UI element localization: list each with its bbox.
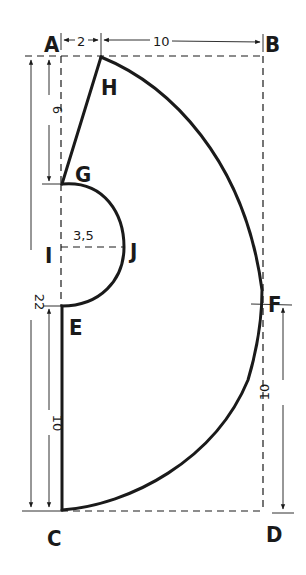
dim-label-e-c: 10 <box>50 415 65 432</box>
label-j: J <box>128 239 137 264</box>
dim-label-h-b: 10 <box>153 34 170 49</box>
label-g: G <box>75 162 91 187</box>
label-e: E <box>69 315 83 340</box>
dim-label-a-h: 2 <box>77 34 85 49</box>
label-f: F <box>268 292 282 317</box>
label-c: C <box>47 526 62 551</box>
label-i: I <box>45 243 52 268</box>
label-b: B <box>265 32 280 57</box>
dim-line-h-b-right <box>172 41 260 42</box>
label-d: D <box>266 522 282 547</box>
dim-label-i-j: 3,5 <box>73 228 94 243</box>
neck-arc-g-j-e <box>62 184 124 306</box>
dim-label-f-d: 10 <box>257 384 272 401</box>
point-labels: A B H G I J E F C D <box>44 32 282 551</box>
label-h: H <box>101 75 118 100</box>
pattern-diagram: A B H G I J E F C D 2 10 3,5 6 22 10 10 <box>0 0 306 575</box>
pattern-outline <box>62 57 262 510</box>
dim-label-total: 22 <box>32 294 47 311</box>
dimension-labels: 2 10 3,5 6 22 10 10 <box>32 34 272 431</box>
outer-arc-h-f-c <box>62 57 262 510</box>
dim-label-a-g: 6 <box>50 106 65 114</box>
label-a: A <box>44 32 60 57</box>
